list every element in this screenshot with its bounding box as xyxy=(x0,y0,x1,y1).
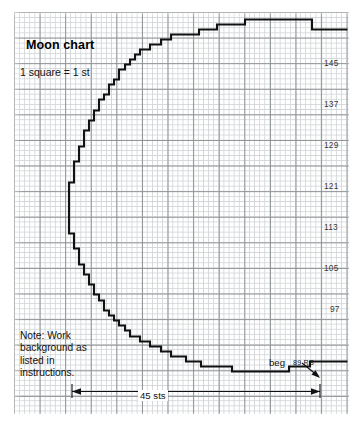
moon-outline-path xyxy=(69,20,348,372)
row-number-label: 121 xyxy=(324,181,339,191)
page-title: Moon chart xyxy=(26,38,94,53)
beg-annotation: beg xyxy=(269,357,285,368)
width-dimension-line xyxy=(72,384,320,398)
start-row-number: 89 xyxy=(293,358,301,367)
background-instructions-note: Note: Work background as listed in instr… xyxy=(20,330,98,380)
row-number-label: 97 xyxy=(330,304,340,314)
row-number-label: 145 xyxy=(324,58,339,68)
row-side-abbrev: RS xyxy=(304,358,314,367)
start-row-side-annotation: 89 RS xyxy=(293,359,314,367)
row-number-label: 137 xyxy=(324,99,339,109)
width-measure-label: 45 sts xyxy=(138,390,168,401)
row-number-label: 105 xyxy=(324,263,339,273)
moon-chart-figure: Moon chart 1 square = 1 st Note: Work ba… xyxy=(0,0,356,424)
row-number-label: 129 xyxy=(324,140,339,150)
legend-square-equals-stitch: 1 square = 1 st xyxy=(20,66,90,78)
row-number-label: 113 xyxy=(324,222,338,232)
